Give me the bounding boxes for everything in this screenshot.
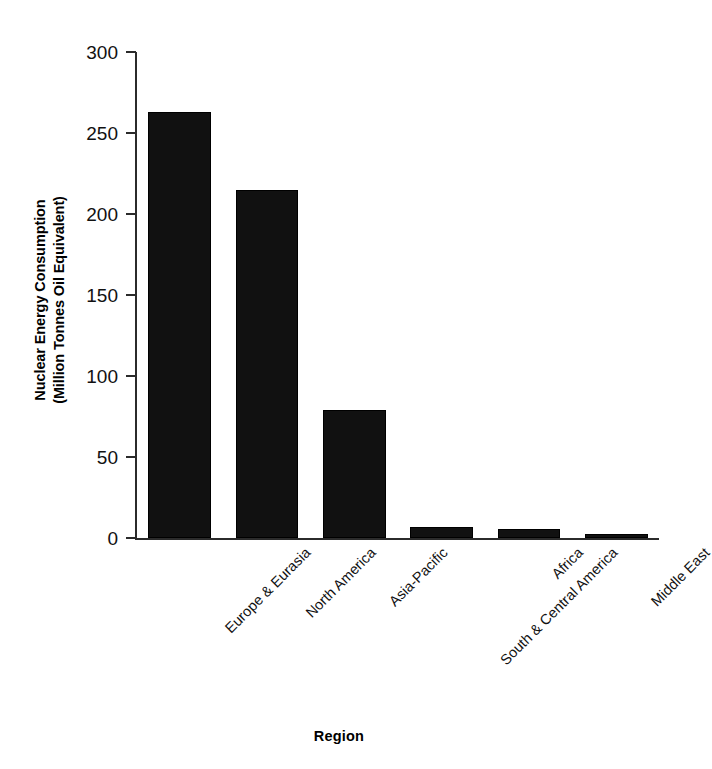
x-axis-tick-label: Middle East [648, 544, 712, 609]
x-axis-tick-label: North America [303, 544, 379, 620]
y-axis-tick-label: 50 [97, 448, 118, 467]
y-axis-tick-label: 250 [86, 124, 118, 143]
y-axis-tick: 250 [126, 132, 136, 134]
y-axis-title-line-1: Nuclear Energy Consumption [31, 196, 50, 404]
bar [585, 534, 648, 538]
y-axis-tick-label: 300 [86, 43, 118, 62]
y-axis-tick-label: 0 [107, 529, 118, 548]
y-axis-tick: 100 [126, 375, 136, 377]
bar [148, 112, 211, 538]
y-axis-tick: 200 [126, 213, 136, 215]
bar [498, 529, 561, 538]
y-axis-tick: 0 [126, 537, 136, 539]
y-axis-tick: 150 [126, 294, 136, 296]
x-axis-tick-label: Europe & Eurasia [222, 544, 314, 636]
bar-series [136, 52, 660, 538]
x-axis-title: Region [0, 728, 678, 744]
x-axis-tick-labels: Europe & EurasiaNorth AmericaAsia-Pacifi… [136, 543, 660, 673]
y-axis-title: Nuclear Energy Consumption (Million Tonn… [0, 0, 100, 600]
x-axis-tick-label: Asia-Pacific [386, 544, 451, 609]
y-axis-tick-label: 100 [86, 367, 118, 386]
y-axis-tick-label: 200 [86, 205, 118, 224]
y-axis-tick: 50 [126, 456, 136, 458]
bar [323, 410, 386, 538]
plot-area: 050100150200250300 [136, 52, 660, 538]
y-axis-tick: 300 [126, 51, 136, 53]
y-axis-title-line-2: (Million Tonnes Oil Equivalent) [50, 196, 69, 404]
bar [236, 190, 299, 538]
y-axis-tick-label: 150 [86, 286, 118, 305]
bar [410, 527, 473, 538]
